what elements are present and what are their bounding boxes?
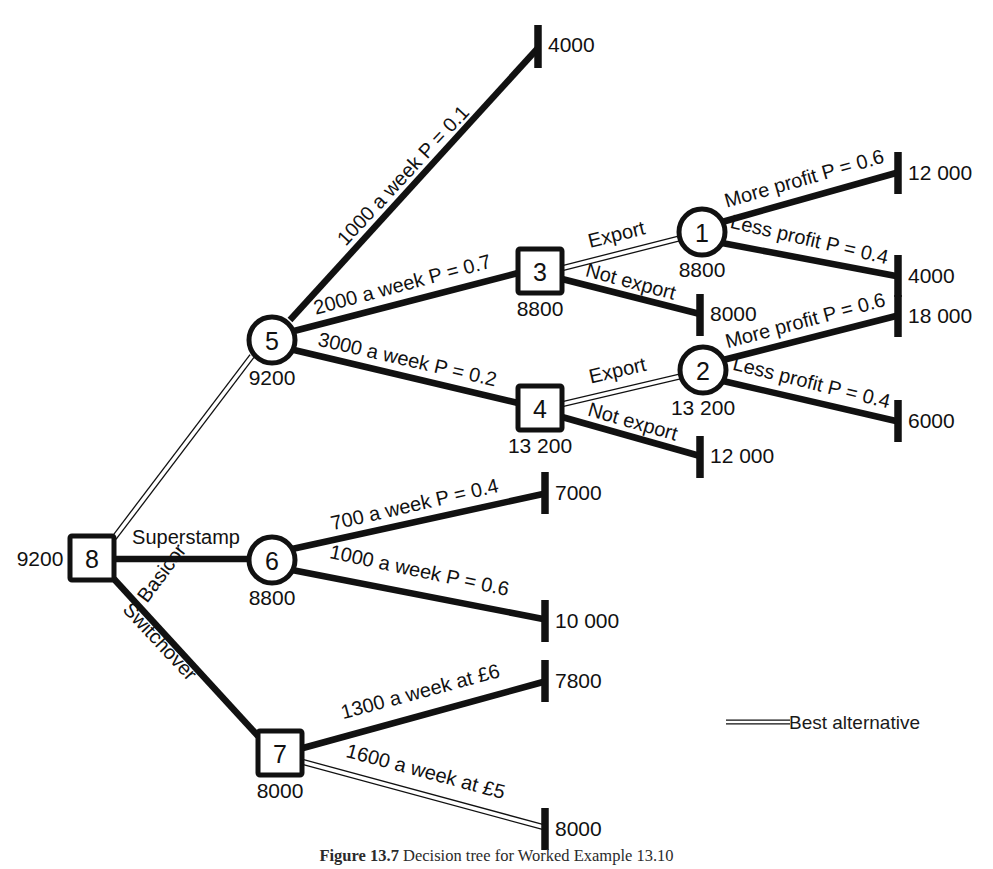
branch-label-1000aweek-p06: 1000 a week P = 0.6	[328, 540, 511, 599]
node-1-value: 8800	[679, 258, 726, 281]
node-2-label: 2	[696, 357, 710, 385]
payoff-12000-node4: 12 000	[710, 444, 774, 467]
decision-tree-figure: 8 9200 5 9200 6 8800 7 8000	[0, 0, 993, 869]
node-8-value: 9200	[17, 547, 64, 570]
payoff-10000: 10 000	[555, 609, 619, 632]
branch-label-basicor: Basicor	[133, 539, 191, 606]
payoff-7000: 7000	[555, 481, 602, 504]
legend-best-alternative-label: Best alternative	[789, 712, 920, 733]
node-1[interactable]: 1	[679, 209, 725, 255]
figure-caption-text: Decision tree for Worked Example 13.10	[403, 846, 674, 865]
payoff-18000: 18 000	[908, 304, 972, 327]
node-7-value: 8000	[257, 779, 304, 802]
node-8[interactable]: 8	[70, 536, 114, 580]
figure-caption-number: Figure 13.7	[319, 846, 398, 865]
branch-label-switchover: Switchover	[119, 598, 202, 685]
node-4-label: 4	[533, 395, 547, 423]
payoff-4000-node1: 4000	[908, 264, 955, 287]
node-3[interactable]: 3	[518, 249, 562, 293]
node-7[interactable]: 7	[258, 731, 302, 775]
payoff-8000-node7: 8000	[555, 817, 602, 840]
payoff-8000-node3: 8000	[710, 302, 757, 325]
node-8-label: 8	[85, 545, 99, 573]
payoff-6000: 6000	[908, 409, 955, 432]
node-7-label: 7	[273, 740, 287, 768]
node-4[interactable]: 4	[518, 386, 562, 430]
node-5-value: 9200	[249, 366, 296, 389]
node-6-value: 8800	[249, 586, 296, 609]
branch-8-5-basicor[interactable]	[114, 356, 252, 538]
payoff-12000: 12 000	[908, 161, 972, 184]
node-2[interactable]: 2	[680, 347, 726, 393]
node-3-label: 3	[533, 258, 547, 286]
node-4-value: 13 200	[508, 434, 572, 457]
payoff-4000-top: 4000	[548, 33, 595, 56]
node-5[interactable]: 5	[249, 317, 295, 363]
node-6-label: 6	[265, 547, 279, 575]
branch-lines	[114, 48, 896, 827]
figure-caption: Figure 13.7 Decision tree for Worked Exa…	[0, 846, 993, 866]
node-3-value: 8800	[517, 297, 564, 320]
node-5-label: 5	[265, 327, 279, 355]
branch-label-export-node4: Export	[587, 353, 649, 388]
node-1-label: 1	[695, 219, 709, 247]
payoff-7800: 7800	[555, 669, 602, 692]
legend: Best alternative	[726, 712, 920, 733]
branch-label-superstamp: Superstamp	[132, 526, 240, 548]
node-6[interactable]: 6	[249, 537, 295, 583]
branch-label-1000aweek-p01: 1000 a week P = 0.1	[333, 101, 474, 250]
decision-tree-canvas: 8 9200 5 9200 6 8800 7 8000	[0, 0, 993, 869]
node-2-value: 13 200	[671, 396, 735, 419]
